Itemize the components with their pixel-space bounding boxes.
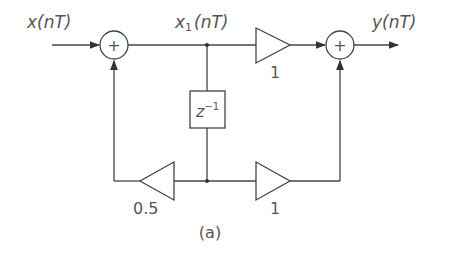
gain-bottom-triangle <box>256 162 290 200</box>
caption: (a) <box>199 223 221 242</box>
junction-top <box>205 43 209 47</box>
gain-feedback-label: 0.5 <box>133 199 158 218</box>
signal-flow-diagram: + + x(nT) x1(nT) y(nT) z−1 1 1 0.5 (a) <box>0 0 451 256</box>
adder-2-symbol: + <box>333 36 346 55</box>
output-label: y(nT) <box>371 12 416 32</box>
gain-top-triangle <box>256 28 290 63</box>
gain-bottom-label: 1 <box>270 199 280 218</box>
gain-top-label: 1 <box>270 63 280 82</box>
adder-1-symbol: + <box>107 36 120 55</box>
junction-bottom <box>205 179 209 183</box>
input-label: x(nT) <box>26 12 71 32</box>
gain-feedback-triangle <box>140 162 174 200</box>
delay-label: z−1 <box>195 101 219 121</box>
intermediate-label: x1(nT) <box>174 12 229 34</box>
